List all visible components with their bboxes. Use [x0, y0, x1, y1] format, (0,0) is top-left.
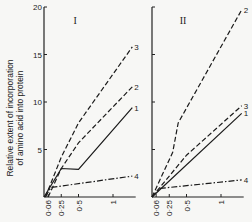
x-tick-label: 0·5 [75, 199, 84, 211]
series-label-1: 1 [134, 104, 139, 113]
panel-title: II [180, 15, 187, 26]
x-tick-label: 0·06 [44, 199, 53, 216]
y-axis-title-line2: of amino acid into protein [15, 70, 25, 165]
y-tick-label: 15 [33, 51, 42, 60]
series-line-1 [44, 108, 132, 197]
series-label-4: 4 [134, 172, 139, 181]
y-tick-label: 10 [33, 98, 42, 107]
series-line-4 [152, 180, 242, 197]
y-axis-title-line1: Relative extent of incorporation [5, 59, 15, 176]
figure: Relative extent of incorporation of amin… [0, 0, 252, 222]
x-tick-label: 0·06 [152, 199, 161, 216]
series-label-2: 2 [134, 83, 139, 92]
series-label-2: 2 [244, 6, 249, 15]
panel-title: I [73, 15, 76, 26]
series-line-2 [48, 87, 132, 197]
y-tick-label: 20 [33, 3, 42, 12]
series-label-4: 4 [244, 176, 249, 185]
x-tick-label: 1 [109, 199, 118, 204]
series-line-2 [152, 10, 242, 197]
x-tick-label: 1 [217, 199, 226, 204]
panel-2: 0·060·250·51II1234 [152, 6, 249, 216]
y-tick-label: 5 [38, 146, 43, 155]
x-tick-label: 0·25 [57, 199, 66, 216]
series-line-4 [45, 176, 132, 197]
series-line-3 [152, 106, 242, 197]
panel-1: 51015200·060·250·51I1234 [33, 3, 139, 216]
x-tick-label: 0·5 [183, 199, 192, 211]
series-label-3: 3 [244, 102, 249, 111]
series-label-3: 3 [134, 43, 139, 52]
x-tick-label: 0·25 [165, 199, 174, 216]
